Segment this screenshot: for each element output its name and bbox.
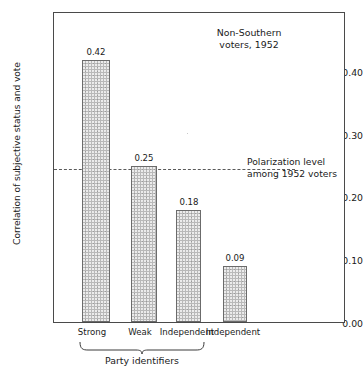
party-identifiers-label: Party identifiers <box>72 355 212 366</box>
polarization-label: Polarization level among 1952 voters <box>247 156 337 179</box>
bar-independent <box>223 266 247 322</box>
bar-value-strong: 0.42 <box>76 47 116 57</box>
y-axis-title: Correlation of subjective status and vot… <box>11 4 22 304</box>
chart-annotation-line-2: voters, 1952 <box>194 39 304 51</box>
bar-value-weak: 0.25 <box>124 153 164 163</box>
chart-annotation-line-1: Non-Southern <box>194 27 304 39</box>
plot-area: Non-Southern voters, 1952 Polarization l… <box>53 12 345 323</box>
chart-figure: Correlation of subjective status and vot… <box>0 0 363 381</box>
bar-weak <box>131 166 157 322</box>
polarization-label-line-1: Polarization level <box>247 156 337 168</box>
bar-strong <box>82 60 110 322</box>
bar-value-independent-leaning: 0.18 <box>169 197 209 207</box>
x-tick-label-independent: Independent <box>196 327 270 337</box>
chart-annotation: Non-Southern voters, 1952 <box>194 27 304 51</box>
bar-independent-leaning <box>176 210 201 322</box>
bar-value-independent: 0.09 <box>215 253 255 263</box>
page-speck <box>187 133 188 134</box>
party-identifiers-brace <box>78 341 206 355</box>
polarization-label-line-2: among 1952 voters <box>247 168 337 180</box>
